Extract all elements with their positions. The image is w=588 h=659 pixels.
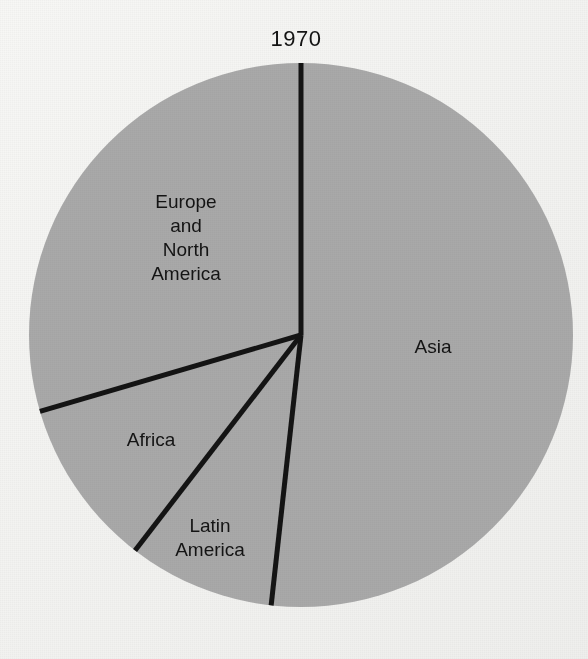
pie-chart-svg	[0, 0, 588, 659]
pie-chart-figure: 1970 Europe and North America Asia Afric…	[0, 0, 588, 659]
